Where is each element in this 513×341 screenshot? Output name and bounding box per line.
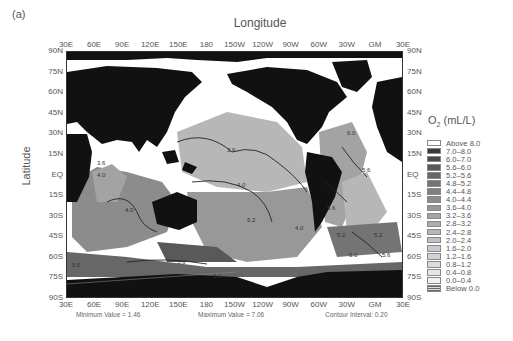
x-tick-label: 120E [135, 40, 165, 49]
svg-text:5.2: 5.2 [337, 232, 346, 238]
svg-text:5.2: 5.2 [374, 232, 383, 238]
legend-swatch [427, 285, 441, 292]
x-tick-label: 60W [304, 40, 334, 49]
legend-swatch [427, 277, 441, 284]
x-tick-label: 90W [276, 300, 306, 309]
panel-label: (a) [12, 8, 25, 20]
legend-swatch [427, 140, 441, 147]
y-tick-label: 75N [407, 67, 435, 76]
x-tick-label: 90W [276, 40, 306, 49]
legend-swatch [427, 269, 441, 276]
legend-swatch [427, 261, 441, 268]
legend-swatch [427, 253, 441, 260]
x-tick-label: GM [360, 300, 390, 309]
oxygen-map: 3.6 4.0 4.0 3.6 4.0 5.2 5.6 5.6 5.2 6.0 … [67, 52, 402, 297]
y-tick-label: 75S [35, 272, 63, 281]
svg-text:5.2: 5.2 [247, 217, 256, 223]
x-axis-title: Longitude [210, 16, 310, 30]
x-tick-label: 90E [107, 40, 137, 49]
legend-item: Below 0.0 [427, 285, 480, 293]
y-tick-label: 60N [35, 87, 63, 96]
legend-swatch [427, 164, 441, 171]
y-tick-label: 90S [35, 293, 63, 302]
svg-text:6.0: 6.0 [347, 130, 356, 136]
legend-swatch [427, 205, 441, 212]
y-tick-label: 30N [35, 128, 63, 137]
legend-swatch [427, 213, 441, 220]
y-tick-label: 75N [35, 67, 63, 76]
legend-swatch [427, 180, 441, 187]
contour-interval-text: Contour Interval: 0.20 [325, 311, 388, 318]
y-tick-label: 15N [35, 149, 63, 158]
color-legend: Above 8.07.0–8.06.0–7.05.6–6.05.2–5.64.8… [427, 139, 480, 293]
legend-swatch [427, 148, 441, 155]
x-tick-label: 30W [332, 40, 362, 49]
x-tick-label: 150E [163, 40, 193, 49]
svg-text:4.0: 4.0 [237, 182, 246, 188]
svg-text:3.6: 3.6 [227, 147, 236, 153]
x-tick-label: GM [360, 40, 390, 49]
legend-title-unit: (mL/L) [440, 114, 475, 126]
legend-swatch [427, 237, 441, 244]
svg-text:5.6: 5.6 [327, 205, 336, 211]
y-tick-label: 45S [35, 231, 63, 240]
x-tick-label: 120W [248, 40, 278, 49]
svg-text:5.6: 5.6 [382, 252, 391, 258]
legend-label: Below 0.0 [446, 284, 479, 293]
legend-swatch [427, 229, 441, 236]
minimum-value-text: Minimum Value = 1.46 [76, 311, 140, 318]
y-tick-label: 30S [35, 211, 63, 220]
y-tick-label: 30N [407, 128, 435, 137]
legend-swatch [427, 172, 441, 179]
svg-text:5.6: 5.6 [72, 262, 81, 268]
svg-text:5.6: 5.6 [177, 259, 186, 265]
x-tick-label: 60E [79, 40, 109, 49]
x-tick-label: 150W [220, 300, 250, 309]
svg-text:4.0: 4.0 [97, 172, 106, 178]
legend-swatch [427, 188, 441, 195]
legend-swatch [427, 245, 441, 252]
y-tick-label: 60N [407, 87, 435, 96]
x-tick-label: 120E [135, 300, 165, 309]
y-tick-label: 90N [35, 46, 63, 55]
y-tick-label: 90S [407, 293, 435, 302]
svg-text:5.6: 5.6 [362, 167, 371, 173]
svg-text:5.2: 5.2 [213, 273, 222, 279]
y-tick-label: 90N [407, 46, 435, 55]
legend-swatch [427, 196, 441, 203]
map-frame: 3.6 4.0 4.0 3.6 4.0 5.2 5.6 5.6 5.2 6.0 … [66, 51, 403, 298]
svg-text:4.0: 4.0 [295, 225, 304, 231]
x-tick-label: 30W [332, 300, 362, 309]
svg-text:5.6: 5.6 [349, 252, 358, 258]
x-tick-label: 60W [304, 300, 334, 309]
legend-title-main: O [428, 114, 437, 126]
x-tick-label: 180 [191, 300, 221, 309]
maximum-value-text: Maximum Value = 7.06 [198, 311, 264, 318]
x-tick-label: 90E [107, 300, 137, 309]
x-tick-label: 150E [163, 300, 193, 309]
y-tick-label: 45N [35, 108, 63, 117]
legend-swatch [427, 221, 441, 228]
svg-text:3.6: 3.6 [97, 160, 106, 166]
legend-swatch [427, 156, 441, 163]
y-tick-label: 60S [35, 252, 63, 261]
svg-text:4.0: 4.0 [125, 207, 134, 213]
x-tick-label: 180 [191, 40, 221, 49]
x-tick-label: 120W [248, 300, 278, 309]
legend-title: O2 (mL/L) [428, 114, 475, 128]
x-tick-label: 150W [220, 40, 250, 49]
y-tick-label: 15S [35, 190, 63, 199]
y-tick-label: EQ [35, 170, 63, 179]
x-tick-label: 60E [79, 300, 109, 309]
y-axis-title: Latitude [20, 136, 32, 196]
